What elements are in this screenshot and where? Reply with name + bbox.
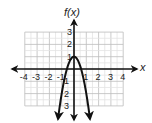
x-tick-label: 4 [120,72,125,82]
y-axis-label: f(x) [64,6,80,18]
function-graph: -4-3-2-11234321123 x f(x) [0,0,152,123]
y-tick-label: 2 [67,39,72,49]
y-tick-label: 3 [64,101,69,111]
x-axis-label: x [139,61,146,73]
x-tick-label: -2 [44,72,52,82]
x-tick-label: 3 [108,72,113,82]
x-tick-label: -3 [32,72,40,82]
x-tick-label: -4 [20,72,28,82]
y-tick-label: 2 [64,89,69,99]
x-tick-label: 2 [96,72,101,82]
y-tick-label: 3 [67,27,72,37]
